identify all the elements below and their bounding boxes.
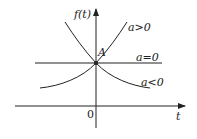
label-a-negative: a<0	[141, 76, 164, 89]
origin-label: 0	[87, 108, 94, 121]
label-a-zero: a=0	[136, 51, 159, 64]
exponential-diagram: f(t) t 0 A a>0 a=0 a<0	[0, 0, 197, 139]
y-axis-label: f(t)	[73, 8, 91, 21]
point-a-label: A	[97, 46, 106, 59]
curve-a-positive	[40, 22, 127, 88]
label-a-positive: a>0	[128, 21, 151, 34]
point-a	[94, 61, 98, 65]
x-axis-label: t	[176, 110, 181, 123]
